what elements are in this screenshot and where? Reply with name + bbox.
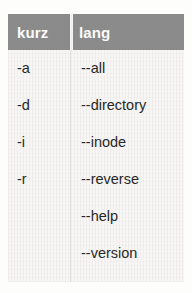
- table-row: -d --directory: [8, 87, 184, 124]
- options-table: kurz lang -a --all -d --directory -i --i…: [8, 14, 184, 282]
- table-row: --help: [8, 198, 184, 235]
- body-column-divider: [70, 50, 71, 282]
- cell-kurz: -d: [8, 98, 70, 113]
- cell-lang: --help: [70, 209, 118, 224]
- table-header-row: kurz lang: [8, 14, 184, 50]
- table-row: -r --reverse: [8, 161, 184, 198]
- cell-lang: --version: [70, 246, 137, 261]
- table-row: -i --inode: [8, 124, 184, 161]
- table-body: -a --all -d --directory -i --inode -r --…: [8, 50, 184, 272]
- cell-kurz: -i: [8, 135, 70, 150]
- cell-lang: --reverse: [70, 172, 139, 187]
- column-header-kurz: kurz: [8, 25, 70, 40]
- column-header-lang: lang: [70, 25, 110, 40]
- table-row: --version: [8, 235, 184, 272]
- cell-kurz: -a: [8, 61, 70, 76]
- table-row: -a --all: [8, 50, 184, 87]
- header-column-divider: [70, 14, 73, 50]
- cell-lang: --inode: [70, 135, 126, 150]
- cell-lang: --directory: [70, 98, 146, 113]
- cell-kurz: -r: [8, 172, 70, 187]
- cell-lang: --all: [70, 61, 105, 76]
